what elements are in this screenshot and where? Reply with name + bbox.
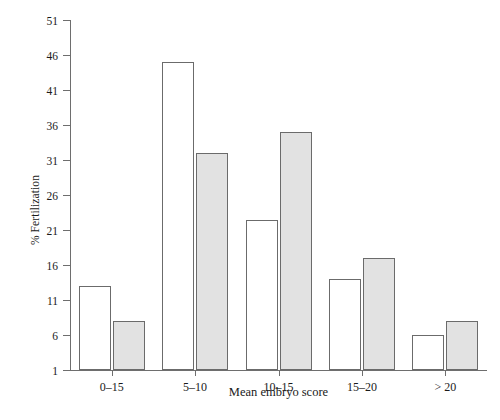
bar-chart: % Fertilization 16111621263136414651 0–1… <box>0 0 500 420</box>
x-axis-tick <box>362 370 363 376</box>
bar <box>246 220 278 371</box>
y-axis-tick-label: 51 <box>47 15 59 27</box>
y-axis-tick-label: 1 <box>52 365 58 377</box>
x-axis-tick <box>112 370 113 376</box>
bar <box>363 258 395 370</box>
x-axis-tick <box>445 370 446 376</box>
y-axis-tick-label: 31 <box>47 155 59 167</box>
y-axis-tick: 26 <box>63 195 70 196</box>
bar <box>280 132 312 370</box>
y-axis-tick-label: 41 <box>47 85 59 97</box>
y-axis-title: % Fertilization <box>22 0 48 420</box>
y-axis-tick-label: 26 <box>47 190 59 202</box>
bar <box>162 62 194 370</box>
y-axis-tick: 36 <box>63 125 70 126</box>
bar <box>196 153 228 370</box>
y-axis-tick-label: 16 <box>47 260 59 272</box>
y-axis-tick-label: 11 <box>47 295 58 307</box>
y-axis-tick: 6 <box>63 335 70 336</box>
y-axis-tick-label: 36 <box>47 120 59 132</box>
x-axis-tick <box>279 370 280 376</box>
x-axis-title: Mean embryo score <box>70 385 487 400</box>
y-axis-tick: 21 <box>63 230 70 231</box>
y-axis-tick-label: 46 <box>47 50 59 62</box>
y-axis-tick: 31 <box>63 160 70 161</box>
bar <box>446 321 478 370</box>
y-axis-tick: 16 <box>63 265 70 266</box>
y-axis-tick-label: 21 <box>47 225 59 237</box>
plot-area: 16111621263136414651 0–155–1010–1515–20>… <box>70 20 487 370</box>
y-axis-tick-label: 6 <box>52 330 58 342</box>
bar <box>79 286 111 370</box>
x-axis-tick <box>195 370 196 376</box>
bar <box>412 335 444 370</box>
y-axis-tick: 11 <box>63 300 70 301</box>
y-axis-tick: 51 <box>63 20 70 21</box>
bar <box>113 321 145 370</box>
y-axis-tick: 46 <box>63 55 70 56</box>
bar <box>329 279 361 370</box>
y-axis-tick: 41 <box>63 90 70 91</box>
y-axis-line <box>70 20 71 370</box>
y-axis-tick: 1 <box>63 370 70 371</box>
